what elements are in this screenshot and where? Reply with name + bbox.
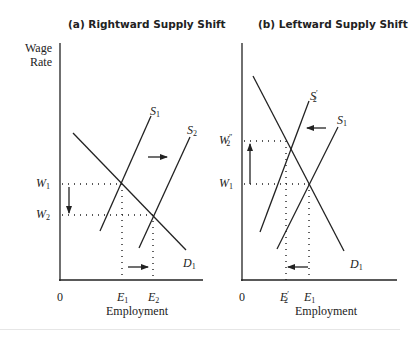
panel-b-d1-label: D1 (350, 258, 363, 272)
panel-a-d1-label: D1 (183, 257, 196, 271)
bottom-divider (0, 329, 400, 330)
panel-b-w1-label: W1 (219, 177, 233, 191)
y-axis-label-line1: Wage (25, 41, 52, 55)
panel-a-s2-label: S2 (187, 124, 197, 138)
panel-b-e1-label: E1 (304, 291, 315, 305)
panel-a-y-axis-label: Wage Rate (24, 41, 52, 69)
y-axis-label-line2: Rate (30, 55, 52, 69)
panel-a-s1-label: S1 (150, 105, 160, 119)
panel-a-x-axis-label: Employment (106, 305, 168, 317)
panel-a-demand-d1 (73, 133, 186, 250)
panel-b-s1-label: S1 (337, 114, 347, 128)
panel-b-x-axis-label: Employment (295, 305, 357, 317)
panel-b-axes (241, 43, 397, 281)
panel-b-w2-double-prime-label: W″2 (219, 134, 230, 148)
panel-b-demand-d1 (253, 76, 344, 251)
panel-a-supply-s2 (139, 137, 190, 248)
panel-b-s2-prime-label: S′2 (310, 90, 317, 104)
panel-b-origin-label: 0 (239, 291, 245, 303)
panel-b-e2-prime-label: E′2 (280, 291, 288, 305)
supply-demand-graphs (0, 0, 414, 337)
panel-a-w2-label: W2 (36, 208, 50, 222)
panel-b-supply-s2-prime (260, 101, 309, 232)
panel-a-supply-s1 (100, 116, 151, 231)
panel-b-supply-s1 (277, 127, 338, 249)
panel-a-origin-label: 0 (57, 291, 63, 303)
panel-b-guides (244, 141, 309, 280)
panel-a-w1-label: W1 (36, 177, 50, 191)
panel-a-e1-label: E1 (117, 291, 128, 305)
panel-a-guides (62, 184, 153, 280)
panel-a-e2-label: E2 (148, 291, 159, 305)
